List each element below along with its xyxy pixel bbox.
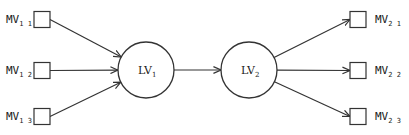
manifest-label: MV2 3: [375, 110, 401, 125]
edge-lv2-to-mv21: [274, 20, 350, 58]
manifest-box: [350, 12, 366, 28]
manifest-label: MV2 2: [375, 64, 401, 79]
manifest-variable-mv13: MV1 3: [6, 109, 50, 125]
latent-variable-lv1: LV1: [118, 42, 174, 98]
manifest-box: [350, 63, 366, 79]
manifest-box: [34, 109, 50, 125]
manifest-variable-mv12: MV1 2: [6, 63, 50, 79]
edges: [50, 20, 350, 117]
manifest-label: MV2 1: [375, 13, 401, 28]
manifest-box: [34, 63, 50, 79]
manifest-box: [350, 109, 366, 125]
edge-mv11-to-lv1: [50, 20, 121, 57]
manifest-variable-mv22: MV2 2: [350, 63, 401, 79]
nodes: LV1LV2MV1 1MV1 2MV1 3MV2 1MV2 2MV2 3: [6, 12, 401, 125]
manifest-variable-mv21: MV2 1: [350, 12, 401, 28]
edge-lv2-to-mv23: [274, 82, 350, 117]
manifest-variable-mv23: MV2 3: [350, 109, 401, 125]
manifest-box: [34, 12, 50, 28]
manifest-variable-mv11: MV1 1: [6, 12, 50, 28]
path-diagram: LV1LV2MV1 1MV1 2MV1 3MV2 1MV2 2MV2 3: [0, 0, 409, 135]
latent-variable-lv2: LV2: [221, 42, 277, 98]
edge-mv13-to-lv1: [50, 82, 121, 116]
manifest-label: MV1 1: [6, 13, 32, 28]
manifest-label: MV1 2: [6, 64, 32, 79]
manifest-label: MV1 3: [6, 110, 32, 125]
